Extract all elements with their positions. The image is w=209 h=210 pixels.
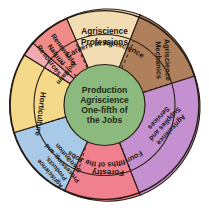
center-line-1: Production bbox=[82, 85, 127, 95]
label-line: Mechanics bbox=[153, 41, 163, 79]
label-line: Professions bbox=[81, 38, 128, 47]
center-line-3: One-fifth of bbox=[81, 105, 127, 115]
center-line-2: Agriscience bbox=[80, 95, 129, 105]
agriscience-career-wheel: Careers in Agriscience Four-fifths of th… bbox=[0, 0, 209, 210]
label-line: Forestry bbox=[91, 168, 124, 178]
label-line: Agriscience bbox=[81, 27, 128, 36]
label-agriscience-mechanics: Agriscience Mechanics bbox=[153, 39, 172, 82]
label-forestry: Forestry bbox=[91, 168, 124, 178]
center-line-4: the Jobs bbox=[87, 115, 123, 125]
center-text-group: Production Agriscience One-fifth of the … bbox=[80, 85, 129, 125]
wheel-diagram: Careers in Agriscience Four-fifths of th… bbox=[0, 0, 209, 210]
